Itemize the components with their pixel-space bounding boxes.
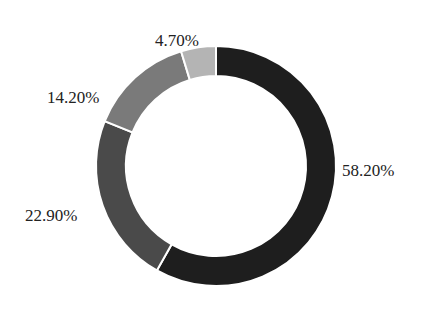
donut-slices: [96, 46, 336, 286]
slice-label-58-20: 58.20%: [342, 162, 394, 179]
donut-slice-1: [96, 121, 172, 270]
slice-label-22-90: 22.90%: [25, 207, 77, 224]
slice-label-14-20: 14.20%: [47, 89, 99, 106]
slice-label-4-70: 4.70%: [155, 32, 199, 49]
donut-chart: [0, 0, 430, 317]
donut-slice-2: [105, 51, 190, 132]
